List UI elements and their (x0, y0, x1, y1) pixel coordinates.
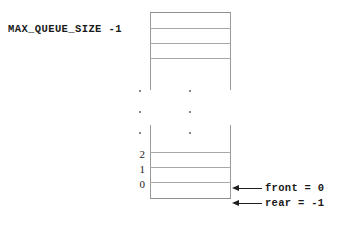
ellipsis-dot (139, 132, 141, 134)
ellipsis-left (139, 90, 141, 134)
index-label-1: 1 (127, 163, 145, 175)
ellipsis-dot (189, 90, 191, 92)
front-pointer-label: front = 0 (265, 182, 324, 194)
array-bottom-edge (150, 198, 231, 199)
arrow-left-icon (232, 184, 262, 193)
index-label-2: 2 (127, 148, 145, 160)
front-pointer: front = 0 (232, 182, 324, 194)
ellipsis-dot (189, 132, 191, 134)
array-right-rail-upper (230, 12, 231, 90)
index-label-0: 0 (127, 178, 145, 190)
max-queue-size-label: MAX_QUEUE_SIZE -1 (8, 23, 122, 35)
ellipsis-dot (139, 90, 141, 92)
ellipsis-inner (189, 90, 191, 134)
rear-pointer: rear = -1 (232, 197, 324, 209)
array-divider-top-2 (150, 43, 231, 44)
array-left-rail-lower (150, 125, 151, 199)
array-divider-bottom-2 (150, 167, 231, 168)
rear-pointer-label: rear = -1 (265, 197, 324, 209)
queue-diagram: MAX_QUEUE_SIZE -1 2 1 0 (0, 0, 341, 226)
array-divider-bottom-3 (150, 182, 231, 183)
array-left-rail-upper (150, 12, 151, 90)
array-divider-top-3 (150, 58, 231, 59)
array-right-rail-lower (230, 125, 231, 199)
array-divider-bottom-1 (150, 152, 231, 153)
arrow-left-icon (232, 199, 262, 208)
array-top-edge (150, 12, 231, 13)
ellipsis-dot (189, 111, 191, 113)
array-divider-top-1 (150, 28, 231, 29)
ellipsis-dot (139, 111, 141, 113)
